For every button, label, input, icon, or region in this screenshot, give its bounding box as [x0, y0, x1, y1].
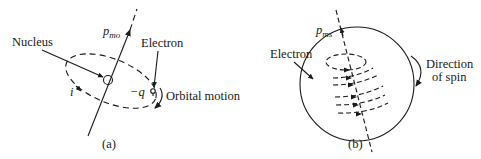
caption-a: (a)	[102, 137, 116, 151]
spin-loop-top	[326, 54, 366, 70]
electron-sphere	[300, 27, 414, 141]
electron-circle-a	[151, 89, 156, 94]
orbital-axis-dashed	[130, 9, 137, 30]
spin-label-line2: of spin	[432, 70, 467, 84]
panel-b-spin: pms Electron Direction of spin (b)	[270, 10, 474, 152]
electron-label-a: Electron	[141, 36, 184, 50]
orbital-motion-label: Orbital motion	[166, 89, 241, 103]
orbit-ellipse	[58, 43, 163, 120]
nucleus-label: Nucleus	[12, 35, 53, 49]
spin-label-line1: Direction	[426, 57, 474, 71]
orbital-axis-line	[88, 30, 130, 136]
charge-label: −q	[130, 85, 145, 99]
moment-label-b: pms	[315, 23, 333, 39]
moment-label-a: pmo	[102, 24, 121, 40]
panel-a-orbital-motion: Nucleus pmo Electron −q Orbital motion i…	[12, 9, 241, 151]
nucleus-circle	[104, 76, 113, 85]
spin-current-loops	[333, 68, 388, 117]
caption-b: (b)	[348, 137, 363, 151]
current-label: i	[70, 85, 74, 99]
electron-pointer-arrow-a	[154, 51, 158, 87]
electron-label-b: Electron	[270, 47, 313, 61]
magnetic-moment-diagram: Nucleus pmo Electron −q Orbital motion i…	[0, 0, 481, 159]
